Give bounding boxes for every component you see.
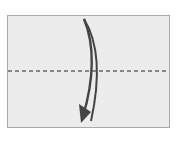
- diagram-overlay: [0, 0, 181, 143]
